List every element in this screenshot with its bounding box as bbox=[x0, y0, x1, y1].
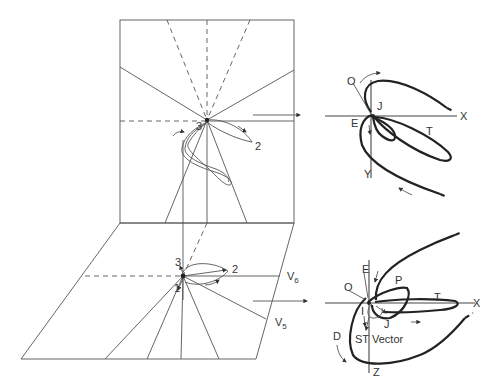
horizontal-plane-frame bbox=[21, 223, 294, 359]
frontal-y-axis-label: Y bbox=[364, 168, 372, 180]
vcg-diagram: 3 2 3 2 1 V6 V5 bbox=[0, 0, 498, 391]
lead2-vector-arrow bbox=[183, 270, 226, 276]
horizontal-t-loop bbox=[375, 299, 458, 312]
horizontal-lead2-label: 2 bbox=[232, 263, 238, 275]
frontal-lead2-label: 2 bbox=[255, 140, 261, 152]
frontal-plane-panel: 3 2 bbox=[120, 20, 294, 300]
horizontal-j-arrow bbox=[376, 306, 386, 313]
frontal-t-label: T bbox=[426, 125, 433, 137]
horizontal-d-arrow bbox=[337, 345, 346, 362]
v5-label: V5 bbox=[275, 316, 287, 331]
horizontal-onset-label: O bbox=[344, 281, 353, 293]
frontal-inner-arrow bbox=[369, 125, 370, 134]
horizontal-p-label: P bbox=[395, 274, 402, 286]
horizontal-z-axis-label: Z bbox=[373, 366, 380, 378]
horizontal-l-arrow bbox=[364, 316, 365, 326]
horizontal-ray-3 bbox=[181, 276, 183, 359]
frontal-lead3-label: 3 bbox=[196, 120, 202, 132]
frontal-ray-lower-left bbox=[165, 120, 207, 223]
horizontal-l-label: I bbox=[361, 305, 364, 317]
frontal-projection-arrow bbox=[173, 132, 184, 136]
vector-label: Vector bbox=[372, 333, 404, 345]
frontal-dashed-ray-right bbox=[207, 20, 250, 120]
v5-lead-line bbox=[183, 276, 266, 319]
horizontal-st-loop bbox=[368, 304, 383, 318]
frontal-qrs-upper-dash bbox=[447, 108, 455, 112]
horizontal-lead3-label: 3 bbox=[175, 256, 181, 268]
horizontal-d-label: D bbox=[333, 330, 341, 342]
frontal-origin-dot bbox=[205, 118, 209, 122]
horizontal-ray-4 bbox=[183, 276, 219, 359]
frontal-j-label: J bbox=[377, 100, 383, 112]
horizontal-lead1-label: 1 bbox=[174, 282, 180, 294]
frontal-bottom-arrow bbox=[399, 188, 412, 195]
frontal-vcg-loop: O E J T X Y bbox=[325, 73, 468, 197]
horizontal-ray-1 bbox=[105, 276, 183, 359]
horizontal-vcg-loop: E O P T X I J D ST Vector Z bbox=[325, 232, 481, 378]
st-label: ST bbox=[355, 333, 369, 345]
horizontal-qrs-upper-dash bbox=[455, 232, 462, 235]
horizontal-e-label: E bbox=[362, 263, 369, 275]
horizontal-e-line bbox=[364, 273, 368, 298]
horizontal-loop-origin bbox=[367, 301, 371, 305]
horizontal-loop bbox=[183, 264, 228, 285]
horizontal-qrs-outer-dash bbox=[465, 313, 473, 318]
frontal-onset-label: O bbox=[347, 75, 356, 87]
horizontal-plane-panel: 3 2 1 V6 V5 bbox=[21, 223, 299, 359]
frontal-ray-upper-right bbox=[207, 70, 294, 120]
frontal-loop-origin bbox=[371, 114, 375, 118]
horizontal-descending-arrow bbox=[375, 271, 378, 282]
frontal-projection-loop-outer bbox=[182, 122, 231, 185]
horizontal-t-label: T bbox=[434, 291, 441, 303]
horizontal-loop-arrow bbox=[205, 280, 219, 285]
horizontal-qrs-outer-limb bbox=[350, 298, 465, 364]
frontal-dashed-ray-left bbox=[167, 20, 207, 120]
horizontal-x-axis-label: X bbox=[473, 297, 481, 309]
frontal-e-label: E bbox=[351, 117, 358, 129]
horizontal-j-label: J bbox=[384, 318, 390, 330]
frontal-x-axis-label: X bbox=[460, 110, 468, 122]
frontal-ray-upper-left bbox=[120, 67, 207, 120]
frontal-qrs-lower-dash bbox=[440, 194, 447, 197]
horizontal-origin-dot bbox=[181, 274, 186, 279]
v6-label: V6 bbox=[287, 270, 299, 285]
